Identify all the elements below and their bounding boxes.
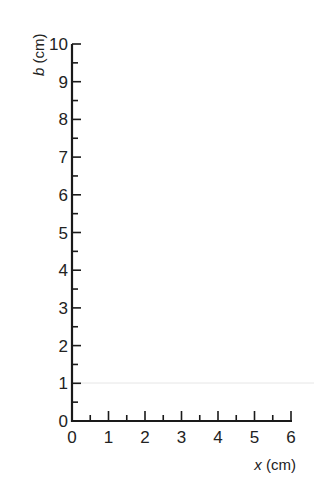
x-axis-label: x (cm) — [253, 456, 296, 473]
y-tick-label: 9 — [59, 73, 68, 92]
x-tick-label: 6 — [286, 428, 295, 447]
x-tick-label: 2 — [140, 428, 149, 447]
x-tick-label: 5 — [250, 428, 259, 447]
x-tick-label: 4 — [213, 428, 222, 447]
y-axis-ticks: 012345678910 — [49, 35, 81, 431]
axes — [71, 44, 292, 422]
y-tick-label: 5 — [59, 224, 68, 243]
y-tick-label: 3 — [59, 299, 68, 318]
chart: 012345678910 0123456 b (cm) x (cm) — [0, 0, 314, 504]
x-tick-label: 1 — [104, 428, 113, 447]
y-tick-label: 7 — [59, 148, 68, 167]
y-tick-label: 4 — [59, 261, 68, 280]
y-tick-label: 6 — [59, 186, 68, 205]
y-tick-label: 2 — [59, 337, 68, 356]
y-tick-label: 1 — [59, 374, 68, 393]
y-axis-label: b (cm) — [30, 33, 47, 76]
y-tick-label: 8 — [59, 110, 68, 129]
x-axis-ticks: 0123456 — [67, 411, 295, 447]
x-tick-label: 0 — [67, 428, 76, 447]
y-tick-label: 10 — [49, 35, 68, 54]
x-tick-label: 3 — [177, 428, 186, 447]
